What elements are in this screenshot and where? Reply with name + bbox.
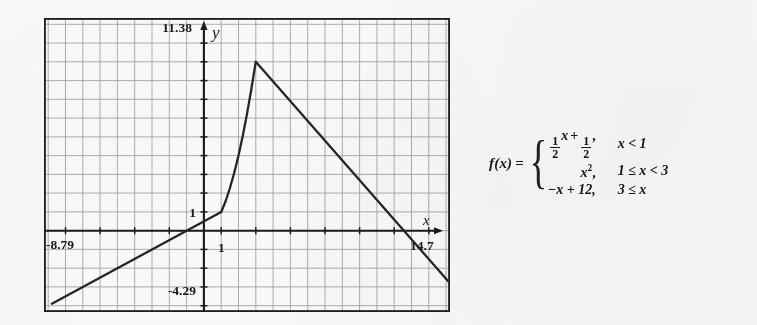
numerator: 1 [581,135,591,148]
cases-grid: 1 2 x+ 1 2 , x < 1 x2, 1 ≤ x < 3 −x + 12… [548,128,669,198]
scanned-page: 11.38 1 -4.29 -8.79 1 14.7 y x f(x) = { … [0,0,757,325]
comma: , [592,128,596,143]
case-2-expression: x2, [548,163,596,181]
fraction-one-half-b: 1 2 [581,135,591,160]
label-y-min: -4.29 [168,283,196,298]
label-y-one: 1 [189,205,196,220]
case-1-condition: x < 1 [618,136,669,152]
label-y-max: 11.38 [162,20,192,35]
denominator: 2 [581,148,591,160]
comma: , [592,164,596,179]
case-1-expression: 1 2 x+ 1 2 , [548,128,596,161]
label-x-max: 14.7 [410,238,434,253]
equals-sign: = [512,155,528,172]
label-x-one: 1 [218,240,225,255]
function-graph: 11.38 1 -4.29 -8.79 1 14.7 y x [44,18,450,312]
left-brace-icon: { [529,137,547,186]
fraction-one-half-a: 1 2 [550,135,560,160]
function-name: f(x) [489,155,512,172]
graph-canvas: 11.38 1 -4.29 -8.79 1 14.7 y x [44,18,450,312]
x-axis-name: x [422,212,430,228]
plus-sign: + [568,128,580,143]
case-2-condition: 1 ≤ x < 3 [618,163,669,179]
case-3-condition: 3 ≤ x [618,182,669,198]
denominator: 2 [550,148,560,160]
y-axis-name: y [210,23,220,42]
piecewise-formula: f(x) = { 1 2 x+ 1 2 , x < 1 x2, 1 ≤ x < … [489,128,668,198]
label-x-min: -8.79 [46,237,74,252]
case-3-expression: −x + 12, [548,182,596,198]
numerator: 1 [550,135,560,148]
